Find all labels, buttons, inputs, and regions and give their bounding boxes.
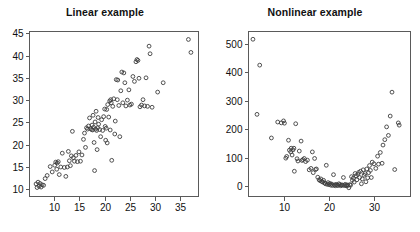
data-point bbox=[156, 90, 160, 94]
data-point bbox=[60, 151, 64, 155]
y-tick-label: 100 bbox=[226, 153, 243, 164]
data-point bbox=[270, 136, 274, 140]
data-point bbox=[294, 122, 298, 126]
data-point bbox=[84, 145, 88, 149]
data-point bbox=[187, 38, 191, 42]
data-point bbox=[115, 98, 119, 102]
data-point bbox=[107, 115, 111, 119]
data-point bbox=[113, 132, 117, 136]
y-tick-label: 500 bbox=[226, 39, 243, 50]
data-point bbox=[48, 165, 52, 169]
data-point bbox=[94, 109, 98, 113]
y-tick-label: 0 bbox=[237, 181, 243, 192]
data-point bbox=[393, 168, 397, 172]
data-point bbox=[117, 104, 121, 108]
y-tick-label: 20 bbox=[12, 140, 24, 151]
data-point bbox=[55, 167, 59, 171]
data-point bbox=[299, 139, 303, 143]
data-point bbox=[144, 76, 148, 80]
data-point bbox=[310, 150, 314, 154]
data-point bbox=[324, 163, 328, 167]
panel-nonlinear-example: Nonlinear example 0100200300400500102030 bbox=[210, 0, 420, 232]
data-point bbox=[364, 180, 368, 184]
data-point bbox=[95, 148, 99, 152]
data-point bbox=[383, 138, 387, 142]
data-point bbox=[108, 128, 112, 132]
y-tick-label: 300 bbox=[226, 96, 243, 107]
data-point bbox=[92, 141, 96, 145]
data-point bbox=[93, 120, 97, 124]
data-point bbox=[113, 119, 117, 123]
data-point bbox=[313, 157, 317, 161]
data-point bbox=[88, 116, 92, 120]
data-point bbox=[67, 159, 71, 163]
data-point bbox=[118, 135, 122, 139]
x-tick-label: 35 bbox=[175, 202, 187, 213]
x-tick-label: 10 bbox=[279, 202, 291, 213]
data-point bbox=[97, 122, 101, 126]
data-point bbox=[374, 167, 378, 171]
data-point bbox=[102, 115, 106, 119]
y-tick-label: 15 bbox=[12, 162, 24, 173]
data-point bbox=[45, 174, 49, 178]
data-point bbox=[137, 76, 141, 80]
data-point bbox=[297, 149, 301, 153]
data-point bbox=[255, 112, 259, 116]
data-point bbox=[127, 88, 131, 92]
data-point bbox=[381, 143, 385, 147]
data-point bbox=[124, 104, 128, 108]
data-point bbox=[258, 63, 262, 67]
data-point bbox=[121, 101, 125, 105]
x-tick-label: 20 bbox=[100, 202, 112, 213]
data-point bbox=[292, 169, 296, 173]
data-point bbox=[119, 89, 123, 93]
data-point bbox=[83, 131, 87, 135]
data-point bbox=[111, 104, 115, 108]
data-point bbox=[368, 164, 372, 168]
x-tick-label: 20 bbox=[324, 202, 336, 213]
y-tick-label: 35 bbox=[12, 73, 24, 84]
x-tick-label: 15 bbox=[74, 202, 86, 213]
data-point bbox=[360, 182, 364, 186]
data-point bbox=[141, 98, 145, 102]
data-point bbox=[380, 161, 384, 165]
data-point-series bbox=[34, 38, 193, 190]
data-point bbox=[64, 174, 68, 178]
data-point bbox=[287, 138, 291, 142]
y-tick-label: 200 bbox=[226, 124, 243, 135]
data-point bbox=[150, 105, 154, 109]
plot-frame bbox=[30, 32, 199, 197]
x-tick-label: 25 bbox=[125, 202, 137, 213]
plot-frame bbox=[249, 32, 411, 197]
y-tick-label: 400 bbox=[226, 67, 243, 78]
data-point bbox=[133, 79, 137, 83]
data-point bbox=[57, 173, 61, 177]
data-point bbox=[342, 176, 346, 180]
y-tick-label: 10 bbox=[12, 184, 24, 195]
data-point bbox=[148, 52, 152, 56]
data-point bbox=[91, 113, 95, 117]
data-point bbox=[376, 154, 380, 158]
data-point bbox=[99, 135, 103, 139]
y-tick-label: 45 bbox=[12, 28, 24, 39]
data-point bbox=[80, 153, 84, 157]
data-point bbox=[77, 150, 81, 154]
data-point bbox=[82, 137, 86, 141]
data-point bbox=[161, 81, 165, 85]
data-point bbox=[332, 173, 336, 177]
data-point bbox=[74, 154, 78, 158]
data-point bbox=[390, 90, 394, 94]
data-point bbox=[50, 170, 54, 174]
x-tick-label: 30 bbox=[369, 202, 381, 213]
y-tick-label: 40 bbox=[12, 51, 24, 62]
data-point bbox=[96, 116, 100, 120]
x-tick-label: 10 bbox=[49, 202, 61, 213]
data-point bbox=[66, 150, 70, 154]
data-point bbox=[378, 151, 382, 155]
data-point bbox=[125, 98, 129, 102]
y-tick-label: 30 bbox=[12, 95, 24, 106]
data-point bbox=[70, 129, 74, 133]
y-tick-label: 25 bbox=[12, 117, 24, 128]
panel-linear-example: Linear example 1015202530354045101520253… bbox=[0, 0, 210, 232]
plot-area-nonlinear: 0100200300400500102030 bbox=[210, 0, 420, 232]
